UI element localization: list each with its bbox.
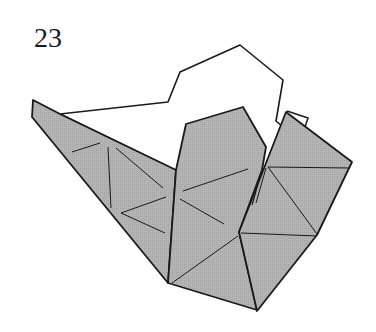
origami-diagram [0, 0, 376, 332]
